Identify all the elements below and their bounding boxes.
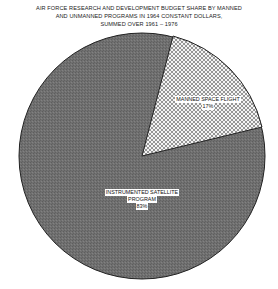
label-satellite: INSTRUMENTED SATELLITE PROGRAM 83% (92, 189, 192, 210)
label-satellite-pct: 83% (136, 203, 149, 210)
label-satellite-name-2: PROGRAM (127, 196, 157, 203)
label-satellite-name-1: INSTRUMENTED SATELLITE (105, 189, 179, 196)
label-manned-pct: 17% (202, 103, 215, 110)
label-manned-name: MANNED SPACE FLIGHT (175, 96, 240, 103)
label-manned: MANNED SPACE FLIGHT 17% (158, 96, 258, 110)
pie-chart (0, 0, 278, 289)
